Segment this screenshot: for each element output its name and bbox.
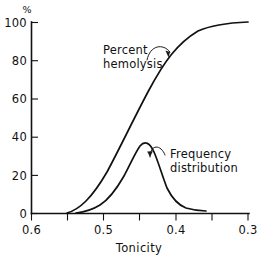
annotation-percent-hemolysis-line1: Percent — [103, 43, 148, 57]
x-tick-label-0-3: 0.3 — [238, 223, 257, 237]
y-tick-label-80: 80 — [12, 54, 27, 68]
y-tick-label-100: 100 — [4, 16, 27, 30]
curve-percent-hemolysis — [67, 22, 248, 213]
annotation-percent-hemolysis-line2: hemolysis — [103, 57, 163, 71]
x-tick-label-0-5: 0.5 — [94, 223, 113, 237]
y-tick-label-0: 0 — [19, 207, 27, 221]
y-tick-label-40: 40 — [12, 130, 27, 144]
y-tick-marks — [32, 23, 39, 214]
x-tick-label-0-6: 0.6 — [22, 223, 41, 237]
annotation-frequency-distribution-line2: distribution — [170, 161, 238, 175]
x-axis-title: Tonicity — [115, 241, 163, 255]
y-tick-label-60: 60 — [12, 92, 27, 106]
chart-plot-area: 100 80 60 40 20 0 % 0.6 0.5 0.4 0.3 Toni… — [0, 0, 265, 260]
x-tick-label-0-4: 0.4 — [166, 223, 185, 237]
chart-figure: 100 80 60 40 20 0 % 0.6 0.5 0.4 0.3 Toni… — [0, 0, 265, 260]
y-tick-label-20: 20 — [12, 169, 27, 183]
annotation-frequency-distribution-line1: Frequency — [170, 147, 231, 161]
y-axis-unit-label: % — [22, 4, 31, 15]
x-tick-marks — [32, 214, 249, 221]
